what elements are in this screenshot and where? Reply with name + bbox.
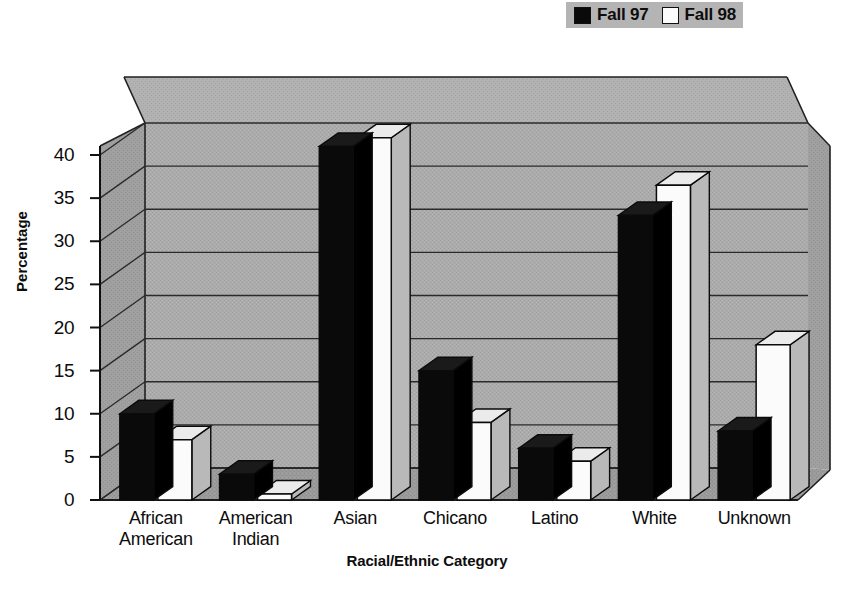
x-tick-label: Asian — [334, 508, 378, 529]
y-tick-label: 20 — [32, 317, 74, 339]
bar-front-face — [618, 215, 652, 500]
bar-side-face — [353, 133, 372, 500]
plot-right-wall — [808, 123, 830, 470]
bar-front-face — [120, 414, 154, 500]
legend-label: Fall 97 — [597, 5, 649, 25]
legend-swatch-hollow-icon — [662, 7, 679, 24]
plot-top-bevel — [124, 77, 808, 123]
bar-front-face — [519, 448, 553, 500]
bar-side-face — [391, 124, 410, 500]
bar-fall97 — [319, 133, 372, 500]
bar-side-face — [790, 331, 809, 500]
y-axis-title: Percentage — [13, 187, 30, 317]
y-tick-label: 15 — [32, 360, 74, 382]
y-tick-label: 5 — [32, 446, 74, 468]
x-tick-label: African American — [119, 508, 193, 550]
bar-side-face — [752, 418, 771, 500]
y-tick-label: 40 — [32, 144, 74, 166]
bar-fall97 — [419, 357, 472, 500]
bar-front-face — [419, 371, 453, 500]
legend-entry: Fall 97 — [574, 5, 649, 25]
bar-side-face — [453, 357, 472, 500]
bar-chart: 0510152025303540 African AmericanAmerica… — [0, 0, 854, 602]
x-tick-labels: African AmericanAmerican IndianAsianChic… — [0, 508, 854, 554]
x-tick-label: Latino — [531, 508, 578, 529]
bar-side-face — [652, 202, 671, 500]
x-tick-label: White — [632, 508, 677, 529]
y-tick-label: 25 — [32, 273, 74, 295]
bar-side-face — [690, 172, 709, 500]
y-tick-label: 10 — [32, 403, 74, 425]
bar-fall97 — [718, 418, 771, 500]
bar-fall97 — [120, 400, 173, 500]
x-tick-label: American Indian — [219, 508, 293, 550]
legend: Fall 97Fall 98 — [566, 2, 743, 28]
x-tick-label: Unknown — [718, 508, 791, 529]
bar-side-face — [491, 409, 510, 500]
x-axis-title: Racial/Ethnic Category — [0, 552, 854, 569]
bar-front-face — [319, 146, 353, 500]
bar-fall97 — [618, 202, 671, 500]
legend-label: Fall 98 — [685, 5, 737, 25]
bar-front-face — [718, 431, 752, 500]
y-tick-label: 30 — [32, 230, 74, 252]
bar-side-face — [154, 400, 173, 500]
legend-swatch-filled-icon — [574, 7, 591, 24]
legend-entry: Fall 98 — [662, 5, 737, 25]
bar-front-face — [258, 494, 292, 500]
y-tick-label: 35 — [32, 187, 74, 209]
bar-front-face — [220, 474, 254, 500]
x-tick-label: Chicano — [423, 508, 487, 529]
bar-fall97 — [519, 435, 572, 500]
